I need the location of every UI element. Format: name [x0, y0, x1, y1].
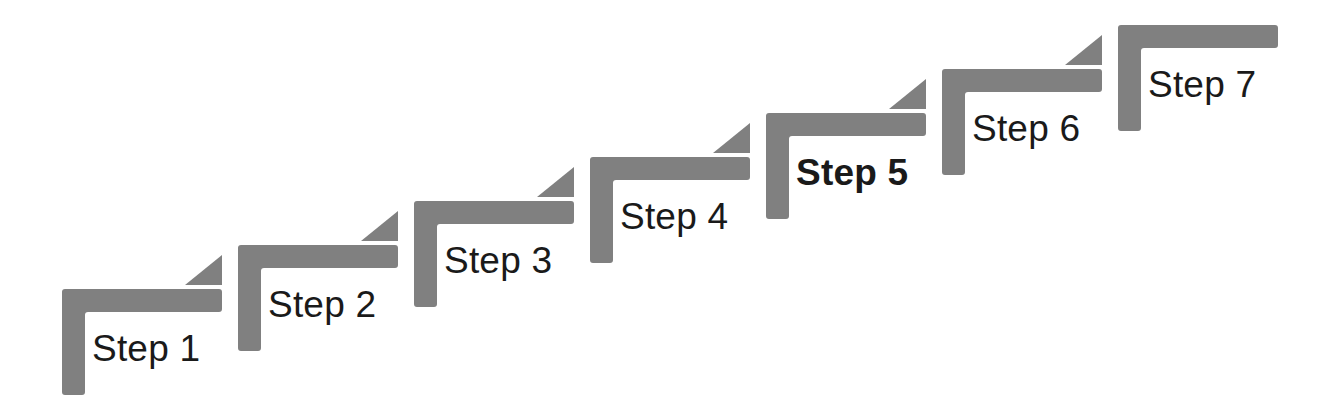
- step-label-4: Step 4: [620, 198, 728, 235]
- step-label-5: Step 5: [796, 154, 908, 191]
- step-label-7: Step 7: [1148, 66, 1256, 103]
- step-arrow-tip-icon: [185, 255, 222, 285]
- step-label-6: Step 6: [972, 110, 1080, 147]
- step-label-3: Step 3: [444, 242, 552, 279]
- step-label-1: Step 1: [92, 330, 200, 367]
- step-arrow-tip-icon: [889, 79, 926, 109]
- step-arrow-tip-icon: [1065, 35, 1102, 65]
- step-arrow-tip-icon: [361, 211, 398, 241]
- staircase-diagram: Step 1Step 2Step 3Step 4Step 5Step 6Step…: [0, 0, 1322, 415]
- step-arrow-tip-icon: [537, 167, 574, 197]
- step-label-2: Step 2: [268, 286, 376, 323]
- step-arrow-tip-icon: [713, 123, 750, 153]
